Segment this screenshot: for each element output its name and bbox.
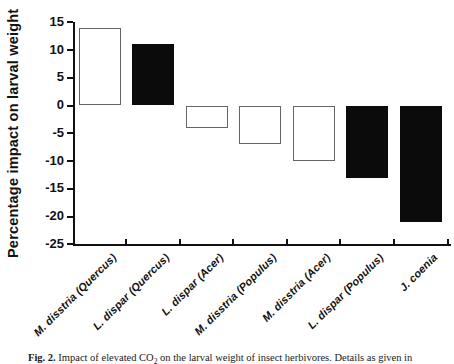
x-axis-line (73, 244, 451, 246)
bar-l-dispar-acer (186, 106, 228, 128)
y-axis-tick (67, 21, 73, 23)
x-axis-tick (339, 239, 341, 244)
y-axis-tick (67, 188, 73, 190)
y-axis-tick (67, 77, 73, 79)
y-axis-tick (67, 49, 73, 51)
bar-l-dispar-populus (346, 106, 388, 178)
y-tick-label: 5 (24, 69, 64, 85)
x-axis-tick (286, 239, 288, 244)
bar-m-disstria-quercus (79, 28, 121, 106)
caption-text-after-subscript: on the larval weight of insect herbivore… (157, 352, 412, 363)
x-tick-label-m-disstria-quercus: M. disstria (Quercus) (0, 251, 118, 364)
x-axis-tick (393, 239, 395, 244)
y-tick-label: 0 (24, 97, 64, 113)
y-tick-label: -10 (24, 153, 64, 169)
bar-l-dispar-quercus (132, 44, 174, 105)
plot-area: 151050-5-10-15-20-25M. disstria (Quercus… (0, 0, 454, 364)
x-axis-tick (232, 239, 234, 244)
figure-2-bar-chart: Percentage impact on larval weight 15105… (0, 0, 454, 364)
bar-m-disstria-acer (293, 106, 335, 162)
bar-m-disstria-populus (239, 106, 281, 145)
y-tick-label: -15 (24, 180, 64, 196)
y-axis-tick (67, 132, 73, 134)
caption-text-before-subscript: Impact of elevated CO (56, 352, 154, 363)
y-axis-line (73, 22, 75, 246)
y-tick-label: -5 (24, 125, 64, 141)
y-axis-tick (67, 105, 73, 107)
caption-fig-label: Fig. 2. (28, 352, 56, 363)
y-tick-label: -25 (24, 236, 64, 252)
figure-caption: Fig. 2. Impact of elevated CO2 on the la… (28, 352, 412, 364)
y-tick-label: -20 (24, 208, 64, 224)
bar-j-coenia (400, 106, 442, 223)
x-axis-tick (447, 239, 449, 244)
y-axis-tick (67, 216, 73, 218)
y-axis-tick (67, 243, 73, 245)
x-axis-tick (179, 239, 181, 244)
y-tick-label: 10 (24, 42, 64, 58)
x-axis-tick (125, 239, 127, 244)
y-tick-label: 15 (24, 14, 64, 30)
y-axis-tick (67, 160, 73, 162)
